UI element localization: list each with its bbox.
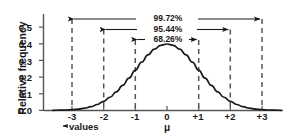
normal-curve [53, 44, 281, 110]
normal-distribution-chart: Relative frequency 0.5 0.4 0.3 0.2 0.1 0… [0, 0, 286, 139]
reference-lines [72, 19, 262, 110]
chart-canvas [0, 0, 286, 139]
